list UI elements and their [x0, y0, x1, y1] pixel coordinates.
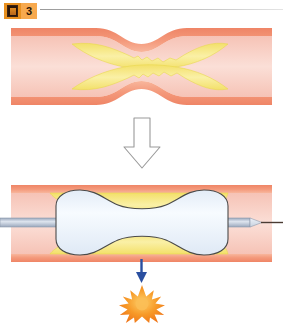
- angioplasty-illustration: [0, 0, 283, 323]
- panel-balloon-angioplasty: [0, 185, 283, 262]
- blue-down-arrow: [136, 259, 147, 283]
- catheter-shaft-left: [0, 218, 62, 227]
- down-arrow-outline: [124, 118, 160, 168]
- starburst: [119, 285, 165, 323]
- panel-stenosed-artery: [11, 28, 272, 105]
- figure-stage: 3: [0, 0, 283, 323]
- vessel-wall-upper-panel2: [11, 185, 272, 193]
